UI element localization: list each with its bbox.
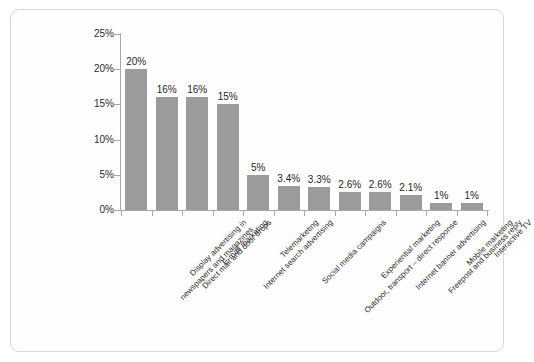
x-axis-tick-mark bbox=[365, 211, 366, 216]
x-axis-tick-mark bbox=[426, 211, 427, 216]
x-axis-tick-mark bbox=[213, 211, 214, 216]
y-axis-tick-mark bbox=[114, 140, 120, 141]
x-axis-tick-mark bbox=[182, 211, 183, 216]
x-axis-category-label: Freepost and business reply bbox=[446, 218, 524, 296]
bar-value-label: 15% bbox=[204, 92, 252, 102]
y-axis-tick-mark bbox=[114, 34, 120, 35]
x-axis-tick-mark bbox=[487, 211, 488, 216]
y-axis-tick-mark bbox=[114, 210, 120, 211]
y-axis-tick-mark bbox=[114, 104, 120, 105]
bar-value-label: 20% bbox=[112, 57, 160, 67]
x-axis-tick-mark bbox=[457, 211, 458, 216]
x-axis-tick-mark bbox=[243, 211, 244, 216]
y-axis-tick-mark bbox=[114, 175, 120, 176]
x-axis-tick-mark bbox=[396, 211, 397, 216]
bar-value-label: 5% bbox=[234, 163, 282, 173]
x-axis-tick-mark bbox=[152, 211, 153, 216]
category-label-line: Freepost and business reply bbox=[446, 218, 524, 296]
y-axis-tick-mark bbox=[114, 69, 120, 70]
x-axis-tick-mark bbox=[121, 211, 122, 216]
x-axis-tick-mark bbox=[304, 211, 305, 216]
bar-value-label: 1% bbox=[448, 191, 496, 201]
x-axis-category-label: Display advertising innewspapers and mag… bbox=[171, 218, 255, 302]
x-axis-tick-mark bbox=[274, 211, 275, 216]
x-axis-tick-mark bbox=[335, 211, 336, 216]
